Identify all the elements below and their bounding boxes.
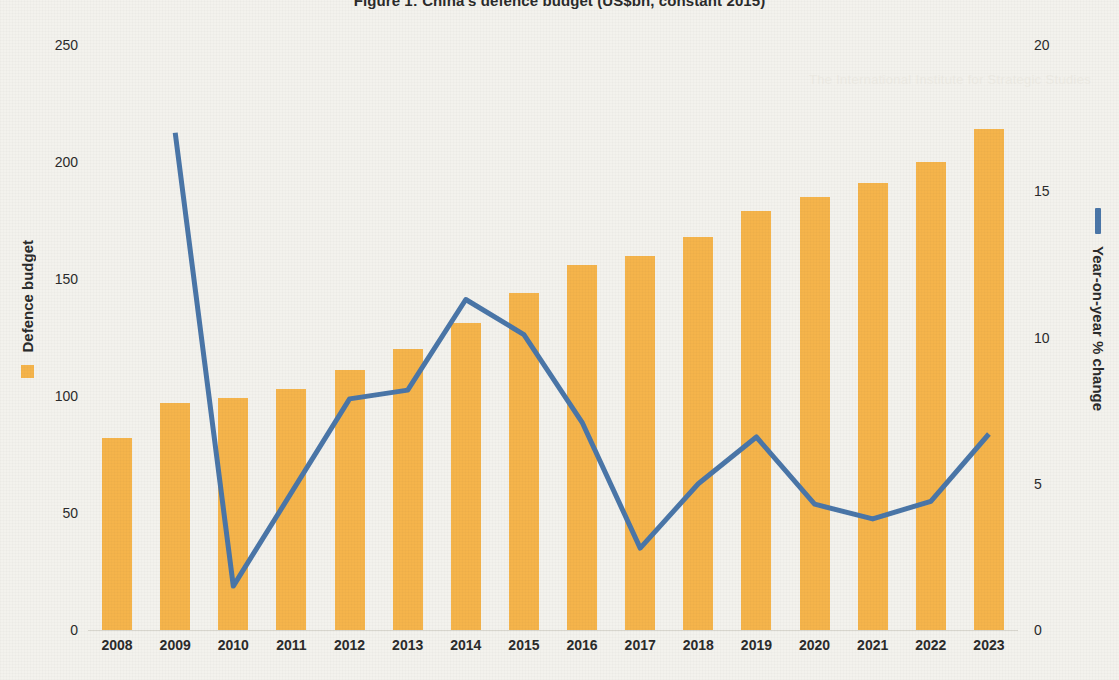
legend-line-icon <box>1095 208 1101 234</box>
y-tick-left-100: 100 <box>32 389 78 403</box>
x-tick-2016: 2016 <box>553 638 611 652</box>
y-tick-left-0: 0 <box>32 623 78 637</box>
line-series-svg <box>88 45 1018 630</box>
x-tick-2023: 2023 <box>960 638 1018 652</box>
legend-square-icon <box>21 365 34 378</box>
x-tick-2015: 2015 <box>495 638 553 652</box>
x-tick-2009: 2009 <box>146 638 204 652</box>
y-tick-left-200: 200 <box>32 155 78 169</box>
x-tick-2010: 2010 <box>204 638 262 652</box>
plot-area <box>88 45 1018 630</box>
chart-title: Figure 1: China's defence budget (US$bn,… <box>0 0 1119 9</box>
y-tick-right-10: 10 <box>1034 331 1074 345</box>
x-tick-2021: 2021 <box>844 638 902 652</box>
x-tick-2013: 2013 <box>379 638 437 652</box>
x-tick-2011: 2011 <box>262 638 320 652</box>
x-tick-2018: 2018 <box>669 638 727 652</box>
yoy-change-line <box>175 133 989 586</box>
legend-defence-budget-label: Defence budget <box>19 240 36 353</box>
y-tick-right-20: 20 <box>1034 38 1074 52</box>
x-axis-line <box>88 630 1018 631</box>
y-tick-left-50: 50 <box>32 506 78 520</box>
y-tick-left-150: 150 <box>32 272 78 286</box>
y-tick-right-15: 15 <box>1034 184 1074 198</box>
y-tick-right-0: 0 <box>1034 623 1074 637</box>
x-tick-2014: 2014 <box>437 638 495 652</box>
x-tick-2022: 2022 <box>902 638 960 652</box>
legend-defence-budget: Defence budget <box>14 240 40 378</box>
y-tick-right-5: 5 <box>1034 477 1074 491</box>
legend-yoy-change: Year-on-year % change <box>1085 208 1111 411</box>
x-tick-2017: 2017 <box>611 638 669 652</box>
x-tick-2012: 2012 <box>321 638 379 652</box>
x-tick-2019: 2019 <box>727 638 785 652</box>
y-tick-left-250: 250 <box>32 38 78 52</box>
legend-yoy-change-label: Year-on-year % change <box>1090 246 1107 411</box>
x-tick-2020: 2020 <box>786 638 844 652</box>
x-tick-2008: 2008 <box>88 638 146 652</box>
